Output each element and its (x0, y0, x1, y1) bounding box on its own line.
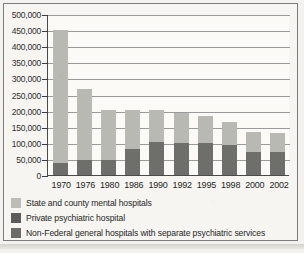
gridline (48, 15, 290, 16)
y-axis-tick (42, 144, 48, 145)
y-axis-tick-label: 200,000 (12, 108, 41, 117)
legend-item-nonfederal: Non-Federal general hospitals with separ… (11, 226, 295, 240)
y-axis-tick-label: 450,000 (12, 27, 41, 36)
y-axis-tick (42, 15, 48, 16)
y-axis-labels: 500,000450,000400,000350,000300,000250,0… (0, 15, 41, 176)
x-axis-label-1986: 1986 (124, 179, 139, 191)
bar-segment-nonfederal (149, 142, 164, 175)
y-axis-tick-label: 350,000 (12, 59, 41, 68)
legend-swatch-nonfederal-icon (11, 228, 21, 238)
legend-label-state: State and county mental hospitals (26, 198, 152, 208)
page-edge-shadow (0, 244, 304, 249)
bar-1980 (101, 110, 116, 175)
gridline (48, 47, 290, 48)
y-axis-tick (42, 47, 48, 48)
y-axis-tick (42, 160, 48, 161)
gridline (48, 63, 290, 64)
x-axis-label-1980: 1980 (100, 179, 115, 191)
bar-1992 (174, 113, 189, 175)
x-axis-label-2000: 2000 (245, 179, 260, 191)
x-axis-label-2002: 2002 (269, 179, 284, 191)
y-axis-tick-label: 300,000 (12, 75, 41, 84)
bar-segment-state (77, 89, 92, 160)
bar-1998 (222, 122, 237, 175)
bar-segment-nonfederal (53, 163, 68, 175)
legend-label-private: Private psychiatric hospital (26, 213, 125, 223)
y-axis-tick-label: 400,000 (12, 43, 41, 52)
y-axis-tick-label: 150,000 (12, 124, 41, 133)
legend-item-private: Private psychiatric hospital (11, 211, 295, 225)
bar-1976 (77, 89, 92, 175)
bar-segment-state (270, 133, 285, 152)
bar-segment-state (198, 116, 213, 143)
y-axis-tick (42, 63, 48, 64)
bar-2002 (270, 133, 285, 176)
y-axis-tick (42, 31, 48, 32)
y-axis-tick-label: 100,000 (12, 140, 41, 149)
bar-segment-state (125, 110, 140, 150)
chart-legend: State and county mental hospitals Privat… (11, 196, 295, 241)
bar-segment-state (174, 113, 189, 144)
legend-swatch-private-icon (11, 213, 21, 223)
y-axis-tick-label: 50,000 (16, 156, 41, 165)
plot-area (47, 15, 289, 176)
x-axis-label-1998: 1998 (221, 179, 236, 191)
y-axis-tick-label: 250,000 (12, 92, 41, 101)
y-axis-tick (42, 79, 48, 80)
bar-2000 (246, 132, 261, 175)
legend-item-state: State and county mental hospitals (11, 196, 295, 210)
x-axis-label-1992: 1992 (173, 179, 188, 191)
x-axis-label-1970: 1970 (52, 179, 67, 191)
y-axis-tick (42, 112, 48, 113)
bar-segment-nonfederal (125, 149, 140, 175)
bar-1995 (198, 116, 213, 175)
bar-segment-nonfederal (198, 143, 213, 175)
bar-segment-nonfederal (101, 160, 116, 175)
bar-segment-state (222, 122, 237, 145)
bar-1986 (125, 110, 140, 175)
bar-segment-nonfederal (246, 152, 261, 175)
y-axis-tick (42, 176, 48, 177)
x-axis-labels: 1970197619801986199019921995199820002002 (47, 179, 289, 192)
bar-segment-state (101, 110, 116, 160)
bar-segment-nonfederal (77, 160, 92, 175)
bar-segment-nonfederal (222, 145, 237, 175)
bar-1970 (53, 30, 68, 175)
bar-segment-nonfederal (270, 152, 285, 176)
y-axis-tick-label: 500,000 (12, 11, 41, 20)
bar-segment-state (246, 132, 261, 152)
bar-segment-nonfederal (174, 143, 189, 175)
y-axis-tick (42, 128, 48, 129)
x-axis-label-1976: 1976 (76, 179, 91, 191)
legend-label-nonfederal: Non-Federal general hospitals with separ… (26, 228, 265, 238)
legend-swatch-state-icon (11, 198, 21, 208)
x-axis-label-1990: 1990 (148, 179, 163, 191)
bar-segment-state (149, 110, 164, 143)
y-axis-tick (42, 96, 48, 97)
gridline (48, 31, 290, 32)
bar-segment-state (53, 30, 68, 163)
y-axis-tick-label: 0 (36, 172, 41, 181)
gridline (48, 79, 290, 80)
x-axis-label-1995: 1995 (197, 179, 212, 191)
bar-1990 (149, 110, 164, 175)
chart-page: 500,000450,000400,000350,000300,000250,0… (0, 0, 304, 253)
